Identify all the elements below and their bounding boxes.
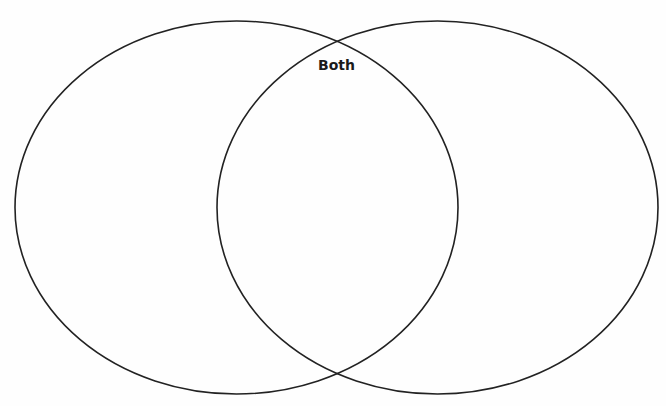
right-set-ellipse [217, 21, 658, 394]
venn-diagram: Both [0, 0, 666, 406]
intersection-label: Both [318, 57, 355, 73]
left-set-ellipse [15, 21, 458, 394]
